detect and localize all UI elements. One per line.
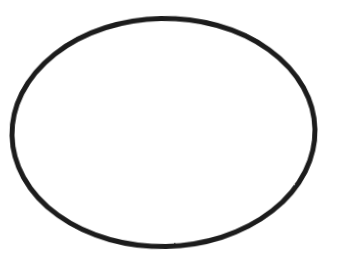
ellipse-figure	[0, 0, 343, 259]
background-rect	[0, 0, 343, 259]
image-canvas	[0, 0, 343, 259]
